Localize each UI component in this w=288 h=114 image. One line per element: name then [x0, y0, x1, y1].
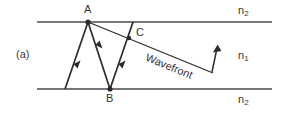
total-internal-reflection-figure: (a) A B C n2 n1 n2 Wavefront	[0, 0, 288, 114]
point-a-dot	[85, 19, 90, 24]
wavefront-line	[88, 22, 213, 73]
point-c-dot	[127, 36, 131, 40]
panel-label: (a)	[16, 49, 29, 60]
point-b-dot	[107, 86, 112, 91]
reflected-ray-ab	[88, 22, 110, 89]
refractive-index-upper-subscript: 2	[244, 9, 248, 18]
refractive-index-lower: n2	[238, 94, 249, 105]
point-label-c: C	[136, 27, 144, 38]
incident-ray	[65, 22, 88, 89]
propagation-arrowhead	[213, 45, 221, 53]
point-label-b: B	[106, 93, 113, 104]
propagation-direction-arrow	[212, 50, 217, 72]
refractive-index-core: n1	[238, 50, 249, 61]
refractive-index-core-subscript: 1	[244, 54, 248, 63]
refractive-index-lower-subscript: 2	[244, 98, 248, 107]
point-label-a: A	[84, 4, 91, 15]
refractive-index-upper: n2	[238, 5, 249, 16]
